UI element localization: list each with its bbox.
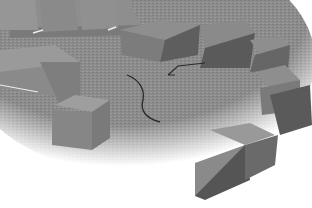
block-top-left-row xyxy=(0,0,140,38)
rendered-scene xyxy=(0,0,312,208)
scene-canvas xyxy=(0,0,312,208)
block-center-left-small xyxy=(52,95,110,150)
